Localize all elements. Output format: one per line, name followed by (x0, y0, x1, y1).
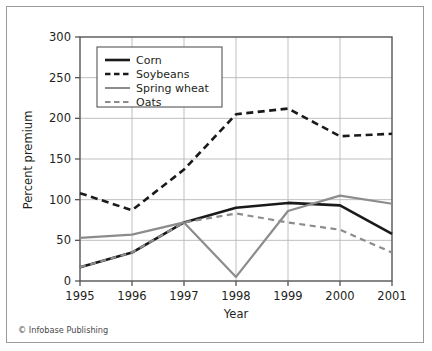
x-axis-ticks: 1995199619971998199920002001 (65, 281, 406, 303)
y-tick-label: 0 (64, 274, 71, 288)
x-tick-label: 2000 (325, 289, 354, 303)
legend-label: Spring wheat (136, 82, 209, 95)
x-tick-label: 1997 (169, 289, 198, 303)
legend-label: Soybeans (136, 68, 190, 81)
x-axis-title: Year (223, 307, 249, 321)
x-tick-label: 1995 (65, 289, 94, 303)
y-tick-label: 100 (49, 193, 71, 207)
y-tick-label: 200 (49, 111, 71, 125)
y-tick-label: 50 (56, 233, 71, 247)
x-tick-label: 2001 (377, 289, 406, 303)
legend-label: Corn (136, 54, 162, 67)
copyright-text: © Infobase Publishing (18, 325, 108, 335)
x-tick-label: 1999 (273, 289, 302, 303)
x-tick-label: 1998 (221, 289, 250, 303)
line-chart: 050100150200250300 199519961997199819992… (0, 0, 432, 351)
x-tick-label: 1996 (117, 289, 146, 303)
legend: CornSoybeansSpring wheatOats (97, 47, 222, 109)
y-tick-label: 150 (49, 152, 71, 166)
y-axis-ticks: 050100150200250300 (49, 30, 80, 288)
y-tick-label: 300 (49, 30, 71, 44)
y-axis-title: Percent premium (21, 111, 35, 210)
legend-label: Oats (136, 96, 162, 109)
y-tick-label: 250 (49, 71, 71, 85)
